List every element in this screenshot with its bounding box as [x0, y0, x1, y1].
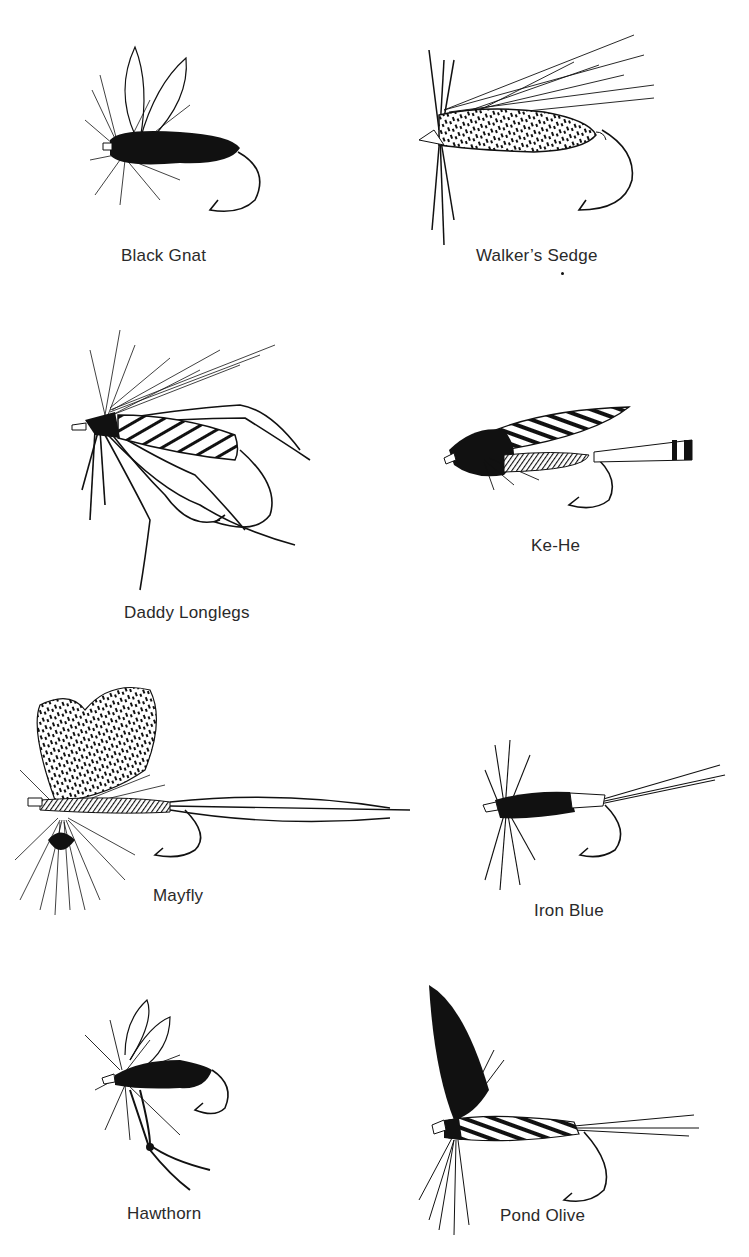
fly-caption: Mayfly: [153, 886, 203, 906]
daddy-longlegs-illustration: [0, 290, 374, 630]
fly-walkers-sedge: Walker’s Sedge: [374, 0, 749, 290]
fly-hawthorn: Hawthorn: [0, 960, 374, 1257]
fly-caption: Hawthorn: [127, 1204, 201, 1224]
fly-pond-olive: Pond Olive: [374, 960, 749, 1257]
ke-he-illustration: [374, 290, 749, 630]
fly-caption: Walker’s Sedge: [476, 246, 598, 266]
fly-iron-blue: Iron Blue: [420, 630, 749, 950]
fly-mayfly: Mayfly: [0, 630, 420, 920]
fly-caption: Ke-He: [531, 536, 580, 556]
mayfly-illustration: [0, 630, 420, 920]
fly-black-gnat: Black Gnat: [0, 0, 374, 290]
fly-ke-he: Ke-He: [374, 290, 749, 630]
fly-caption: Iron Blue: [534, 901, 604, 921]
fly-caption: Black Gnat: [121, 246, 206, 266]
fly-caption: Pond Olive: [500, 1206, 585, 1226]
fly-daddy-longlegs: Daddy Longlegs: [0, 290, 374, 630]
fly-caption: Daddy Longlegs: [124, 603, 250, 623]
ink-dot: [561, 272, 564, 275]
